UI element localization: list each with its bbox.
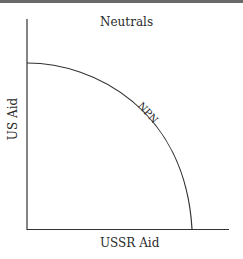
- npn-curve: [27, 63, 192, 229]
- diagram-canvas: [0, 0, 243, 259]
- diagram-title: Neutrals: [100, 15, 153, 29]
- x-axis-label: USSR Aid: [100, 236, 159, 250]
- y-axis-label: US Aid: [6, 94, 20, 144]
